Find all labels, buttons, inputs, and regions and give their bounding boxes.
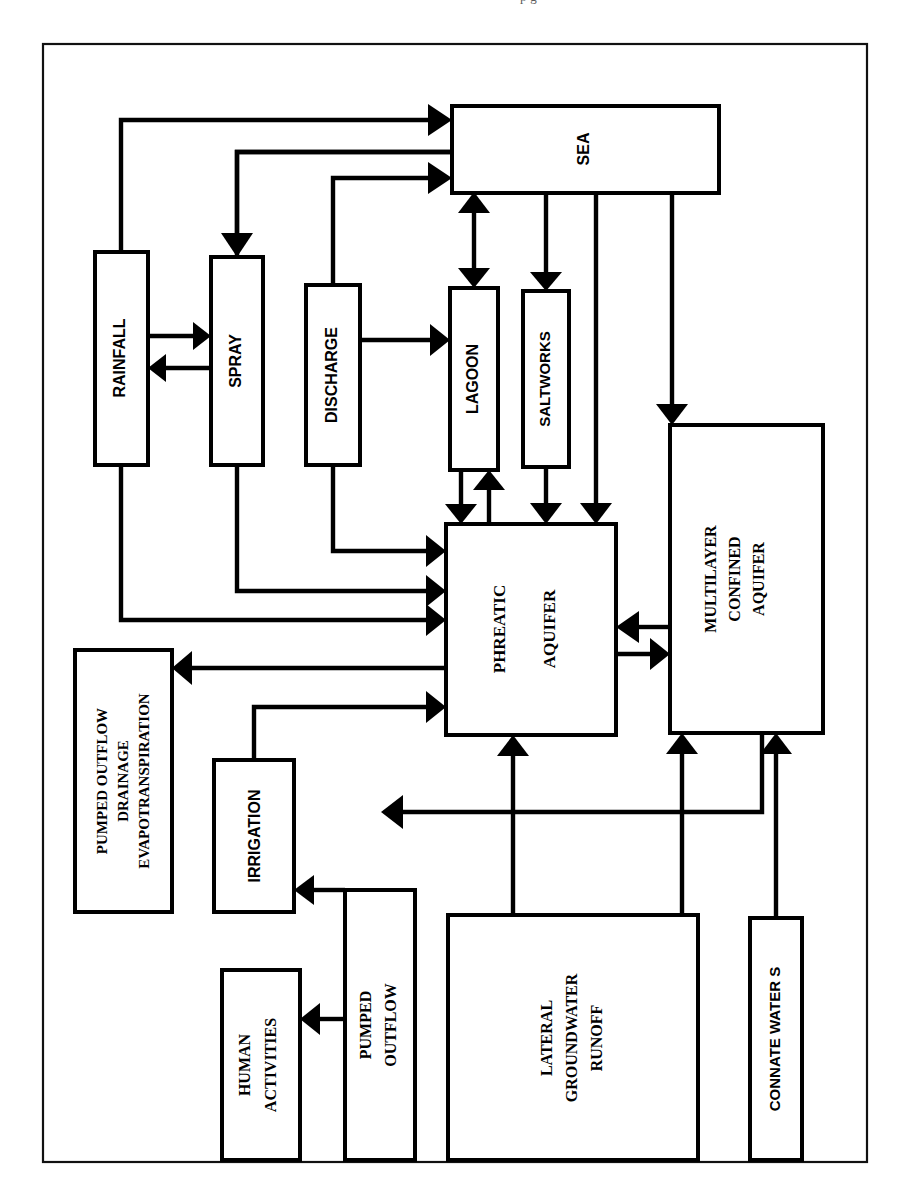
node-lateral-groundwater-runoff[interactable]: LATERAL GROUNDWATER RUNOFF (448, 915, 698, 1160)
edge-multilayer-to-phreatic (616, 611, 670, 643)
node-multilayer-label-line3: AQUIFER (750, 542, 767, 616)
edge-multilayer-left-outflow (381, 733, 762, 829)
node-lateral-label-line2: GROUNDWATER (563, 973, 580, 1102)
node-pumped-label-line2: OUTFLOW (382, 983, 399, 1067)
edge-saltworks-to-phreatic (530, 467, 562, 524)
edge-lateral-to-multilayer (666, 733, 698, 915)
node-irrigation[interactable]: IRRIGATION (214, 760, 294, 912)
node-lateral-label-line3: RUNOFF (588, 1004, 605, 1071)
edge-discharge-to-lagoon (360, 324, 450, 356)
edge-phreatic-to-lagoon (473, 470, 505, 524)
node-irrigation-label: IRRIGATION (246, 789, 263, 882)
node-multilayer-label-line1: MULTILAYER (702, 525, 719, 633)
edge-sea-to-phreatic (580, 193, 612, 524)
node-phreatic-label-line2: AQUIFER (540, 589, 559, 668)
edge-connate-to-multilayer (760, 733, 792, 918)
node-saltworks[interactable]: SALTWORKS (523, 291, 569, 467)
edge-sea-to-spray (221, 152, 452, 257)
node-layer: SEA RAINFALL SPRAY DISCHARGE LAGOON SALT (75, 106, 823, 1160)
node-multilayer-confined-aquifer[interactable]: MULTILAYER CONFINED AQUIFER (670, 425, 823, 733)
node-outflows-label-line3: EVAPOTRANSPIRATION (136, 693, 152, 868)
node-phreatic-label-line1: PHREATIC (490, 585, 509, 673)
edge-discharge-to-sea (333, 162, 452, 285)
node-discharge-label: DISCHARGE (323, 327, 340, 423)
edge-sea-lagoon-bidirectional (458, 192, 490, 288)
node-human-label-line1: HUMAN (236, 1033, 253, 1096)
node-saltworks-label: SALTWORKS (536, 331, 553, 427)
node-pumped-label-line1: PUMPED (357, 991, 374, 1059)
edge-spray-to-phreatic (237, 465, 446, 607)
node-lateral-label-line1: LATERAL (538, 1000, 555, 1076)
node-multilayer-label-line2: CONFINED (726, 536, 743, 621)
edge-sea-to-multilayer (656, 193, 688, 425)
edge-phreatic-to-outflows (172, 651, 446, 685)
node-rainfall[interactable]: RAINFALL (95, 252, 148, 465)
edge-pumped-to-human (300, 1003, 345, 1035)
node-spray[interactable]: SPRAY (211, 257, 263, 465)
edge-spray-to-rainfall (148, 354, 211, 382)
node-outflows-label-line1: PUMPED OUTFLOW (94, 708, 110, 854)
node-pumped-outflow[interactable]: PUMPED OUTFLOW (345, 890, 415, 1160)
edge-spray-to-sea (237, 152, 452, 257)
node-discharge[interactable]: DISCHARGE (306, 285, 360, 465)
node-connate-water-s[interactable]: CONNATE WATER S (750, 918, 802, 1160)
node-pumped-outflow-drainage-evapotranspiration[interactable]: PUMPED OUTFLOW DRAINAGE EVAPOTRANSPIRATI… (75, 650, 172, 912)
edge-sea-to-saltworks (530, 193, 562, 291)
diagram-canvas: p g (0, 0, 910, 1204)
node-connate-label: CONNATE WATER S (766, 967, 783, 1111)
node-lagoon-label: LAGOON (464, 344, 481, 414)
node-human-activities[interactable]: HUMAN ACTIVITIES (222, 970, 300, 1160)
edge-rainfall-to-spray (148, 322, 211, 350)
edge-lateral-to-phreatic (497, 735, 529, 915)
edge-discharge-to-phreatic (333, 465, 446, 567)
edge-pumped-to-irrigation (294, 875, 345, 905)
node-sea-label: SEA (575, 132, 592, 165)
edge-phreatic-to-multilayer (616, 638, 670, 670)
edge-lagoon-to-phreatic (445, 470, 477, 524)
edge-irrigation-to-phreatic (254, 691, 446, 760)
node-outflows-label-line2: DRAINAGE (115, 740, 131, 822)
node-human-label-line2: ACTIVITIES (262, 1018, 279, 1112)
node-spray-label: SPRAY (227, 334, 244, 388)
node-sea[interactable]: SEA (452, 106, 719, 193)
flow-diagram-svg: SEA RAINFALL SPRAY DISCHARGE LAGOON SALT (0, 0, 910, 1204)
node-lagoon[interactable]: LAGOON (450, 288, 498, 470)
node-phreatic-aquifer[interactable]: PHREATIC AQUIFER (446, 524, 616, 735)
node-rainfall-label: RAINFALL (111, 318, 128, 397)
